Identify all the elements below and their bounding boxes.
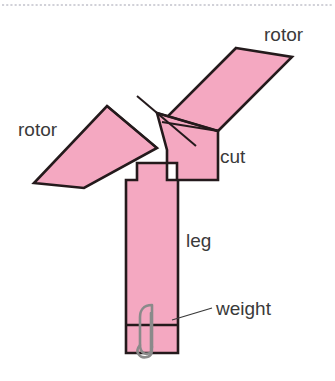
diagram-figure: rotor rotor cut leg weight [0, 0, 335, 381]
paper-helicopter-diagram: rotor rotor cut leg weight [0, 0, 335, 381]
label-leg: leg [186, 230, 211, 251]
label-cut: cut [220, 146, 246, 167]
label-weight: weight [215, 298, 272, 319]
label-rotor-right: rotor [264, 24, 304, 45]
label-rotor-left: rotor [18, 119, 58, 140]
